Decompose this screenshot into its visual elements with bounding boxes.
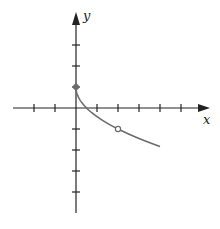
y-axis: [72, 12, 80, 213]
x-axis-arrow-icon: [198, 104, 210, 112]
y-axis-arrow-icon: [72, 12, 80, 25]
function-curve: [76, 87, 160, 146]
open-point-marker: [115, 126, 120, 131]
closed-point-marker: [73, 84, 79, 90]
y-axis-label: y: [82, 8, 91, 23]
x-axis-label: x: [203, 112, 211, 127]
function-graph: x y: [0, 0, 220, 229]
